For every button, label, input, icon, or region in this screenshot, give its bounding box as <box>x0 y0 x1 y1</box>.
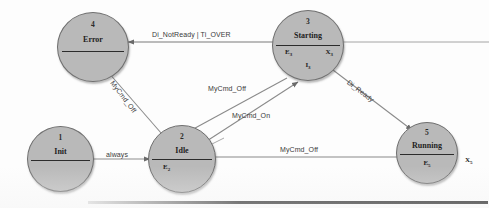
state-diagram-canvas: 4 Error 3 Starting E3 X3 I3 1 Init 2 Idl… <box>0 0 489 208</box>
entry-sub-idle: 2 <box>168 167 171 172</box>
state-exit-running: X5 <box>465 156 473 165</box>
invariant-sub-starting: 3 <box>308 65 311 70</box>
state-id-starting: 3 <box>273 17 343 26</box>
edge-label-always: always <box>106 151 128 158</box>
state-name-init: Init <box>28 147 93 156</box>
state-divider-init <box>31 160 90 161</box>
entry-sub-starting: 3 <box>290 52 293 57</box>
state-name-starting: Starting <box>273 31 343 40</box>
state-entry-idle: E2 <box>163 163 170 172</box>
state-name-error: Error <box>58 35 128 44</box>
edge-label-mycmd-on: MyCmd_On <box>232 112 270 119</box>
state-entry-running: E5 <box>397 159 457 168</box>
state-divider-error <box>62 51 124 52</box>
state-id-error: 4 <box>58 20 128 29</box>
state-entry-starting: E3 <box>285 48 292 57</box>
state-divider-idle <box>152 159 212 160</box>
exit-sub-starting: 3 <box>331 52 334 57</box>
state-node-idle[interactable]: 2 Idle E2 <box>148 125 216 193</box>
edge-label-mycmd-off-starting: MyCmd_Off <box>208 85 246 92</box>
state-id-idle: 2 <box>149 132 215 141</box>
state-exit-starting: X3 <box>325 48 333 57</box>
state-node-error[interactable]: 4 Error <box>57 12 129 82</box>
state-divider-starting <box>276 45 340 46</box>
state-divider-running <box>400 154 454 155</box>
state-node-starting[interactable]: 3 Starting E3 X3 I3 <box>272 10 344 81</box>
state-id-running: 5 <box>397 128 457 137</box>
state-id-init: 1 <box>28 133 93 142</box>
state-name-idle: Idle <box>149 146 215 155</box>
state-node-running[interactable]: 5 Running E5 <box>396 122 458 184</box>
page-edge-rule <box>88 201 488 204</box>
state-name-running: Running <box>397 141 457 150</box>
exit-sub-running: 5 <box>470 160 473 165</box>
state-node-init[interactable]: 1 Init <box>27 126 94 192</box>
edge-label-di-notready-ti-over: Di_NotReady | Ti_OVER <box>152 31 231 38</box>
state-invariant-starting: I3 <box>273 61 343 70</box>
edge-label-mycmd-off-running: MyCmd_Off <box>280 146 318 153</box>
entry-sub-running: 5 <box>428 163 431 168</box>
